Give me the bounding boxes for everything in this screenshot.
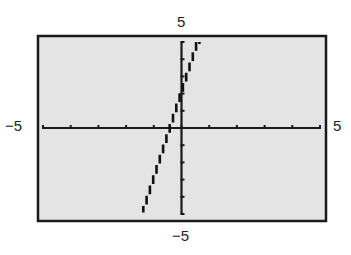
- calculator-graph-screen: [0, 0, 351, 255]
